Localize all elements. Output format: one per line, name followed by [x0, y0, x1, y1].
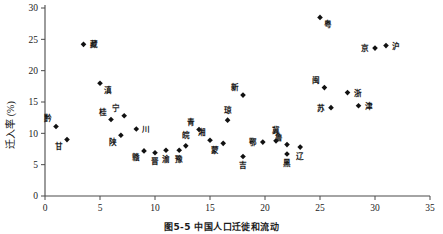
y-tick-label-25: 25	[29, 35, 39, 45]
x-tick-label-25: 25	[315, 203, 325, 213]
point-label-湘: 湘	[198, 127, 206, 137]
data-point-宁	[121, 113, 127, 119]
x-tick-label-15: 15	[205, 203, 215, 213]
point-label-滇: 滇	[104, 85, 112, 95]
x-tick-label-20: 20	[260, 203, 270, 213]
data-point-吉	[240, 154, 246, 160]
data-point-豫	[176, 147, 182, 153]
data-point-皖	[183, 143, 189, 149]
y-tick-label-30: 30	[29, 3, 39, 13]
point-label-沪: 沪	[392, 41, 400, 51]
point-label-浙: 浙	[354, 88, 362, 98]
data-point-黔	[53, 124, 59, 130]
point-label-蒙: 蒙	[211, 145, 219, 155]
x-tick-label-5: 5	[98, 203, 103, 213]
figure-container: 05101520253005101520253035迁入率 (%) 黔甘藏滇桂陕…	[0, 0, 443, 234]
y-tick-label-20: 20	[29, 66, 39, 76]
data-point-滇	[97, 80, 103, 86]
data-point-桂	[108, 117, 114, 123]
x-tick-label-35: 35	[425, 203, 435, 213]
data-point-苏	[328, 105, 334, 111]
point-label-豫: 豫	[175, 154, 183, 164]
data-point-川	[134, 126, 140, 132]
point-label-京: 京	[361, 43, 369, 53]
point-label-藏: 藏	[90, 39, 98, 49]
data-point-赣	[141, 148, 147, 154]
point-label-鲁: 鲁	[275, 132, 283, 142]
data-point-鄂	[260, 139, 266, 145]
data-point-渝	[163, 147, 169, 153]
point-label-宁: 宁	[112, 103, 120, 113]
data-point-陕	[118, 132, 124, 138]
data-point-鲁	[284, 142, 290, 148]
data-point-新	[240, 92, 246, 98]
y-tick-label-15: 15	[29, 97, 39, 107]
data-point-晋	[152, 150, 158, 156]
data-point-黑	[284, 151, 290, 157]
point-label-辽: 辽	[296, 151, 304, 161]
point-label-甘: 甘	[55, 141, 63, 151]
point-label-桂: 桂	[98, 107, 107, 117]
x-tick-label-30: 30	[370, 203, 380, 213]
chart-data-points: 黔甘藏滇桂陕宁川赣晋渝豫皖青湘蒙琼新吉鄂冀鲁黑辽粤闽苏浙津京沪	[44, 15, 400, 170]
point-label-川: 川	[141, 125, 150, 134]
point-label-琼: 琼	[224, 105, 232, 115]
point-label-陕: 陕	[109, 137, 117, 147]
point-label-晋: 晋	[151, 157, 159, 166]
data-point-京	[372, 45, 378, 51]
point-label-苏: 苏	[317, 103, 325, 113]
data-point-甘	[64, 137, 70, 143]
data-point-藏	[81, 42, 87, 48]
figure-caption: 图5-5 中国人口迁徙和流动	[0, 220, 443, 233]
scatter-chart: 05101520253005101520253035迁入率 (%) 黔甘藏滇桂陕…	[0, 0, 443, 234]
point-label-闽: 闽	[312, 75, 320, 85]
point-label-渝: 渝	[161, 154, 170, 164]
point-label-赣: 赣	[132, 152, 140, 162]
point-label-黑: 黑	[283, 158, 291, 168]
data-point-辽	[297, 144, 303, 150]
y-tick-label-10: 10	[29, 129, 39, 139]
data-point-蒙	[220, 141, 226, 147]
data-point-琼	[225, 117, 231, 123]
point-label-鄂: 鄂	[249, 137, 257, 147]
point-label-新: 新	[231, 82, 239, 92]
data-point-粤	[317, 15, 323, 21]
x-tick-label-10: 10	[150, 203, 160, 213]
y-axis-title: 迁入率 (%)	[4, 101, 17, 149]
data-point-闽	[322, 85, 328, 91]
point-label-黔: 黔	[44, 113, 52, 123]
point-label-吉: 吉	[239, 160, 247, 170]
y-tick-label-5: 5	[33, 160, 38, 170]
point-label-皖: 皖	[182, 130, 190, 140]
data-point-沪	[383, 43, 389, 49]
point-label-津: 津	[365, 101, 373, 111]
x-tick-label-0: 0	[43, 203, 48, 213]
y-tick-label-0: 0	[33, 191, 38, 201]
point-label-粤: 粤	[324, 19, 332, 29]
data-point-浙	[345, 90, 351, 96]
data-point-津	[356, 103, 362, 109]
data-point-湘	[207, 137, 213, 143]
point-label-青: 青	[187, 117, 195, 127]
